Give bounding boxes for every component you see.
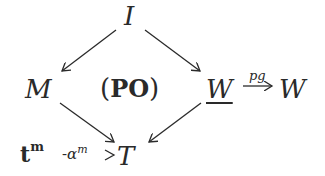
alpha-superscript: m bbox=[77, 143, 87, 156]
arrow-m-to-t bbox=[60, 103, 114, 142]
label-pg: pg bbox=[249, 69, 266, 82]
node-t: T bbox=[117, 143, 134, 169]
po-label: PO bbox=[110, 74, 149, 103]
paren-open: ( bbox=[100, 73, 110, 103]
paren-close: ) bbox=[149, 73, 159, 103]
t-base: t bbox=[20, 141, 30, 167]
t-superscript: m bbox=[30, 139, 44, 154]
arrow-i-to-m bbox=[62, 30, 116, 71]
arrow-i-to-w bbox=[145, 30, 200, 71]
alpha-symbol: α bbox=[67, 145, 77, 163]
node-w: W bbox=[279, 76, 306, 102]
arrow-alpha-head bbox=[105, 150, 114, 160]
commutative-diagram: I M (PO) W pg W tm -αm T bbox=[0, 0, 325, 176]
node-i: I bbox=[124, 3, 134, 29]
arrow-w-to-t bbox=[149, 103, 201, 142]
node-t-m: tm bbox=[20, 143, 44, 165]
node-m: M bbox=[25, 76, 52, 102]
node-w-underlined: W bbox=[206, 76, 233, 102]
label-alpha-m: -αm bbox=[62, 147, 88, 162]
node-po: (PO) bbox=[100, 75, 159, 101]
